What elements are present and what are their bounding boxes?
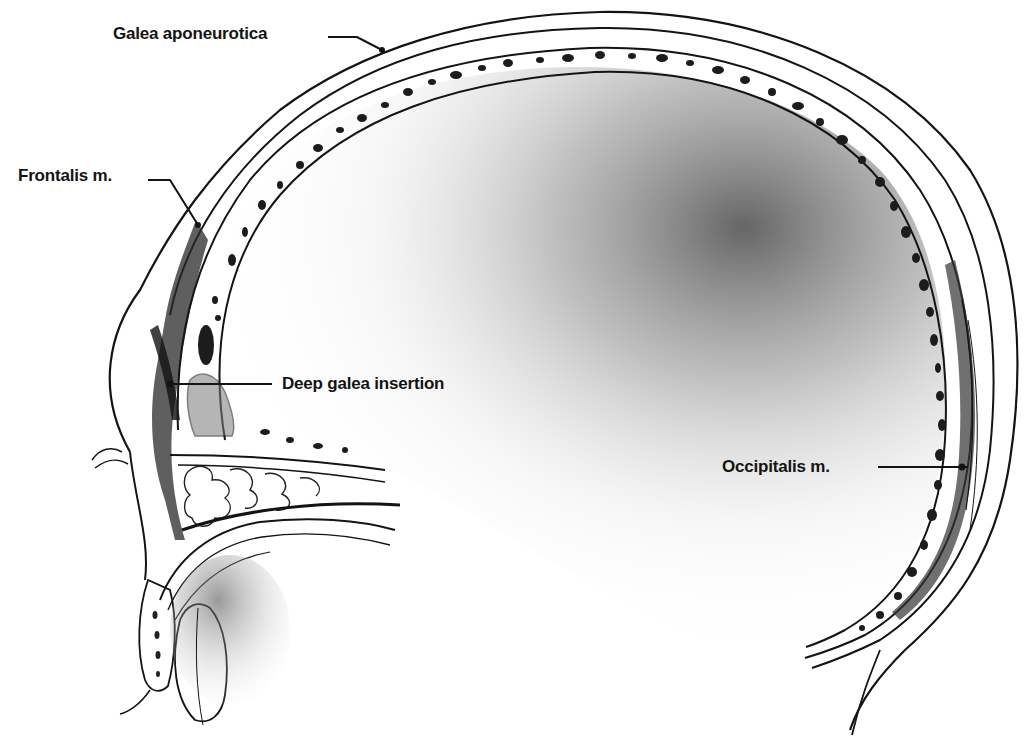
label-galea-aponeurotica: Galea aponeurotica	[113, 24, 267, 44]
orbital-roof	[170, 455, 385, 470]
leader-frontalis	[148, 180, 198, 225]
diagram-canvas: Galea aponeurotica Frontalis m. Deep gal…	[0, 0, 1030, 743]
eyelashes	[120, 690, 150, 714]
orbital-fat	[184, 466, 319, 526]
leader-galea	[328, 37, 382, 50]
label-frontalis-muscle: Frontalis m.	[18, 166, 112, 186]
eyebrow-hairs	[92, 449, 128, 468]
label-occipitalis-muscle: Occipitalis m.	[722, 457, 830, 477]
neck-line	[852, 650, 880, 735]
label-deep-galea-insertion: Deep galea insertion	[282, 374, 444, 394]
eye-socket-shading	[170, 555, 290, 705]
brain-cavity-shading	[224, 67, 946, 640]
skull-section-illustration	[0, 0, 1030, 743]
